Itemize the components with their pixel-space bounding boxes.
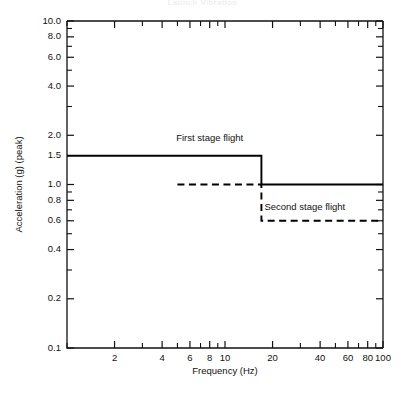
x-tick-label: 20: [267, 352, 278, 363]
y-tick-label: 0.2: [48, 292, 61, 303]
x-tick-label: 2: [112, 352, 117, 363]
y-tick-label: 0.6: [48, 214, 61, 225]
y-tick-label: 0.1: [48, 342, 61, 353]
x-tick-label: 60: [343, 352, 354, 363]
x-tick-label: 80: [362, 352, 373, 363]
x-tick-label: 100: [375, 352, 391, 363]
y-tick-label: 10.0: [43, 15, 62, 26]
y-tick-label: 6.0: [48, 51, 61, 62]
y-tick-label: 4.0: [48, 80, 61, 91]
y-tick-label: 2.0: [48, 129, 61, 140]
y-tick-label: 0.4: [48, 243, 61, 254]
plot-area: 24681020406080100Frequency (Hz)10.08.06.…: [0, 0, 405, 405]
x-tick-label: 8: [207, 352, 212, 363]
y-axis-title: Acceleration (g) (peak): [13, 136, 24, 232]
x-tick-label: 6: [187, 352, 192, 363]
series-annotation-1: First stage flight: [176, 132, 243, 143]
y-tick-label: 8.0: [48, 30, 61, 41]
y-tick-label: 1.5: [48, 149, 61, 160]
vibration-chart: Launch Vibration 24681020406080100Freque…: [0, 0, 405, 405]
series-line-1: [67, 156, 383, 185]
x-tick-label: 4: [159, 352, 164, 363]
cropped-page-caption: Launch Vibration: [0, 0, 405, 6]
y-tick-label: 1.0: [48, 178, 61, 189]
x-tick-label: 40: [315, 352, 326, 363]
y-tick-label: 0.8: [48, 194, 61, 205]
x-tick-label: 10: [220, 352, 231, 363]
series-annotation-2: Second stage flight: [264, 201, 345, 212]
x-axis-title: Frequency (Hz): [192, 365, 257, 376]
